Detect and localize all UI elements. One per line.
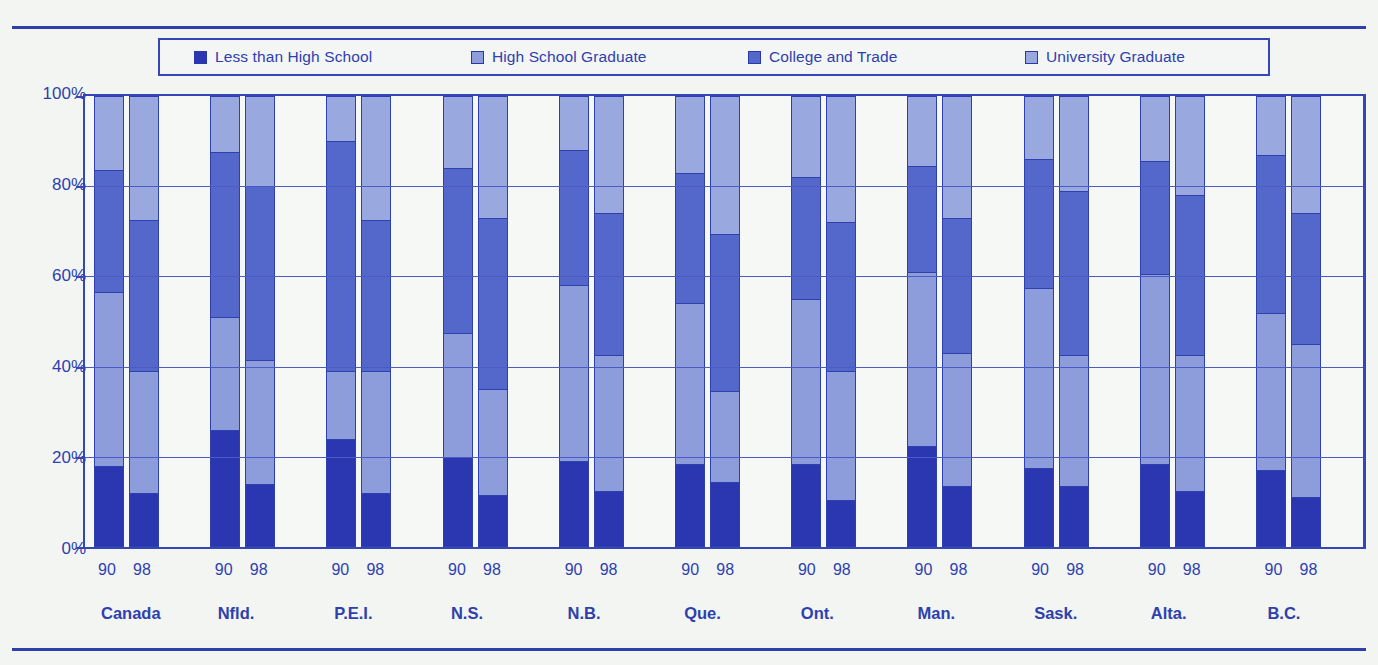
bar-segment[interactable] <box>594 491 624 547</box>
bar-segment[interactable] <box>1140 96 1170 161</box>
bar-segment[interactable] <box>942 486 972 547</box>
bar-segment[interactable] <box>559 150 589 285</box>
bar-segment[interactable] <box>791 464 821 547</box>
legend-item-college-and-trade[interactable]: College and Trade <box>714 48 991 66</box>
bar-segment[interactable] <box>1256 313 1286 471</box>
stacked-bar-sask-98[interactable] <box>1059 96 1089 547</box>
bar-segment[interactable] <box>443 96 473 168</box>
bar-segment[interactable] <box>907 96 937 166</box>
bar-segment[interactable] <box>1059 191 1089 356</box>
stacked-bar-canada-98[interactable] <box>129 96 159 547</box>
bar-segment[interactable] <box>907 272 937 446</box>
bar-segment[interactable] <box>1059 486 1089 547</box>
bar-segment[interactable] <box>210 430 240 547</box>
bar-segment[interactable] <box>1291 96 1321 213</box>
bar-segment[interactable] <box>559 96 589 150</box>
bar-segment[interactable] <box>443 333 473 457</box>
bar-segment[interactable] <box>594 213 624 355</box>
bar-segment[interactable] <box>245 186 275 360</box>
stacked-bar-bc-98[interactable] <box>1291 96 1321 547</box>
stacked-bar-pei-98[interactable] <box>361 96 391 547</box>
bar-segment[interactable] <box>326 141 356 371</box>
bar-segment[interactable] <box>361 493 391 547</box>
stacked-bar-canada-90[interactable] <box>94 96 124 547</box>
stacked-bar-nb-98[interactable] <box>594 96 624 547</box>
bar-segment[interactable] <box>361 96 391 220</box>
bar-segment[interactable] <box>791 96 821 177</box>
bar-segment[interactable] <box>942 96 972 218</box>
bar-segment[interactable] <box>210 317 240 430</box>
bar-segment[interactable] <box>594 355 624 490</box>
bar-segment[interactable] <box>942 218 972 353</box>
stacked-bar-nfld-98[interactable] <box>245 96 275 547</box>
bar-segment[interactable] <box>710 482 740 547</box>
bar-segment[interactable] <box>94 292 124 466</box>
bar-segment[interactable] <box>1175 491 1205 547</box>
bar-segment[interactable] <box>826 371 856 500</box>
bar-segment[interactable] <box>94 96 124 170</box>
bar-segment[interactable] <box>478 389 508 495</box>
bar-segment[interactable] <box>942 353 972 486</box>
bar-segment[interactable] <box>326 439 356 547</box>
stacked-bar-ns-98[interactable] <box>478 96 508 547</box>
stacked-bar-bc-90[interactable] <box>1256 96 1286 547</box>
bar-segment[interactable] <box>361 371 391 493</box>
bar-segment[interactable] <box>907 446 937 547</box>
stacked-bar-man-90[interactable] <box>907 96 937 547</box>
bar-segment[interactable] <box>594 96 624 213</box>
stacked-bar-ont-98[interactable] <box>826 96 856 547</box>
bar-segment[interactable] <box>1024 159 1054 288</box>
bar-segment[interactable] <box>791 177 821 299</box>
bar-segment[interactable] <box>710 391 740 481</box>
stacked-bar-nfld-90[interactable] <box>210 96 240 547</box>
bar-segment[interactable] <box>129 96 159 220</box>
bar-segment[interactable] <box>326 96 356 141</box>
bar-segment[interactable] <box>826 96 856 222</box>
bar-segment[interactable] <box>245 484 275 547</box>
bar-segment[interactable] <box>675 464 705 547</box>
bar-segment[interactable] <box>129 371 159 493</box>
bar-segment[interactable] <box>1140 464 1170 547</box>
bar-segment[interactable] <box>478 96 508 218</box>
bar-segment[interactable] <box>129 220 159 371</box>
stacked-bar-alta-90[interactable] <box>1140 96 1170 547</box>
bar-segment[interactable] <box>1256 155 1286 313</box>
legend-item-less-than-high-school[interactable]: Less than High School <box>160 48 437 66</box>
bar-segment[interactable] <box>1175 195 1205 355</box>
bar-segment[interactable] <box>1024 96 1054 159</box>
bar-segment[interactable] <box>94 466 124 547</box>
stacked-bar-pei-90[interactable] <box>326 96 356 547</box>
stacked-bar-que-98[interactable] <box>710 96 740 547</box>
bar-segment[interactable] <box>1140 274 1170 463</box>
stacked-bar-alta-98[interactable] <box>1175 96 1205 547</box>
bar-segment[interactable] <box>675 173 705 304</box>
bar-segment[interactable] <box>1140 161 1170 274</box>
bar-segment[interactable] <box>1024 468 1054 547</box>
bar-segment[interactable] <box>675 303 705 463</box>
bar-segment[interactable] <box>245 96 275 186</box>
bar-segment[interactable] <box>210 96 240 152</box>
legend-item-high-school-graduate[interactable]: High School Graduate <box>437 48 714 66</box>
bar-segment[interactable] <box>1059 355 1089 486</box>
stacked-bar-man-98[interactable] <box>942 96 972 547</box>
bar-segment[interactable] <box>1291 497 1321 547</box>
bar-segment[interactable] <box>710 234 740 392</box>
bar-segment[interactable] <box>245 360 275 484</box>
bar-segment[interactable] <box>1256 96 1286 155</box>
bar-segment[interactable] <box>1256 470 1286 547</box>
bar-segment[interactable] <box>675 96 705 173</box>
bar-segment[interactable] <box>478 218 508 389</box>
stacked-bar-sask-90[interactable] <box>1024 96 1054 547</box>
stacked-bar-nb-90[interactable] <box>559 96 589 547</box>
bar-segment[interactable] <box>559 461 589 547</box>
bar-segment[interactable] <box>326 371 356 439</box>
bar-segment[interactable] <box>907 166 937 272</box>
bar-segment[interactable] <box>826 222 856 371</box>
bar-segment[interactable] <box>1175 355 1205 490</box>
bar-segment[interactable] <box>559 285 589 461</box>
bar-segment[interactable] <box>1291 213 1321 344</box>
bar-segment[interactable] <box>361 220 391 371</box>
bar-segment[interactable] <box>1175 96 1205 195</box>
bar-segment[interactable] <box>791 299 821 464</box>
bar-segment[interactable] <box>210 152 240 317</box>
